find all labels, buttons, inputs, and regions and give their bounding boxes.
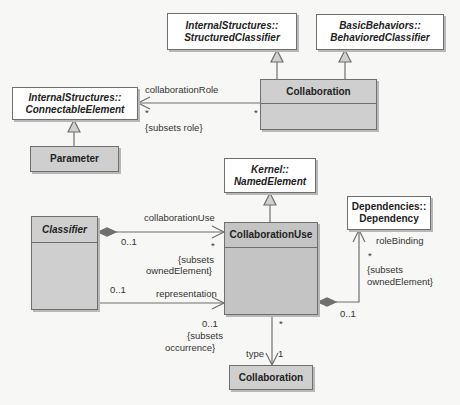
compartment-divider bbox=[32, 242, 97, 243]
class-name: ConnectableElement bbox=[26, 104, 125, 116]
class-package: InternalStructures:: bbox=[186, 20, 279, 32]
class-collaboration-bottom: Collaboration bbox=[229, 365, 313, 390]
mult-collaboration-role-source: * bbox=[254, 107, 258, 118]
compartment-divider bbox=[225, 247, 317, 248]
constraint-role-binding-2: ownedElement} bbox=[367, 276, 433, 287]
class-connectable-element: InternalStructures:: ConnectableElement bbox=[12, 87, 138, 120]
class-collaboration-top: Collaboration bbox=[260, 79, 377, 130]
mult-type-target: 1 bbox=[278, 348, 283, 359]
constraint-representation-2: occurrence} bbox=[165, 342, 215, 353]
mult-role-binding-target: * bbox=[368, 250, 372, 261]
class-package: InternalStructures:: bbox=[29, 92, 122, 104]
class-classifier: Classifier bbox=[31, 216, 98, 310]
class-name: CollaborationUse bbox=[230, 229, 313, 241]
role-representation: representation bbox=[156, 288, 217, 299]
class-structured-classifier: InternalStructures:: StructuredClassifie… bbox=[167, 13, 297, 50]
class-named-element: Kernel:: NamedElement bbox=[224, 158, 316, 193]
constraint-collaboration-use-1: {subsets bbox=[178, 254, 214, 265]
mult-collaboration-use-source: 0..1 bbox=[121, 236, 137, 247]
class-collaboration-use: CollaborationUse bbox=[224, 222, 318, 315]
class-name: StructuredClassifier bbox=[184, 32, 280, 44]
role-role-binding: roleBinding bbox=[376, 235, 424, 246]
mult-collaboration-use-target: * bbox=[211, 240, 215, 251]
class-name: Dependency bbox=[359, 213, 418, 225]
mult-role-binding-source: 0..1 bbox=[340, 308, 356, 319]
mult-representation-target: 0..1 bbox=[202, 318, 218, 329]
class-name: Collaboration bbox=[286, 86, 350, 98]
mult-type-source: * bbox=[279, 318, 283, 329]
class-behaviored-classifier: BasicBehaviors:: BehavioredClassifier bbox=[316, 14, 444, 50]
class-name: BehavioredClassifier bbox=[330, 32, 430, 44]
role-type: type bbox=[246, 348, 264, 359]
class-dependency: Dependencies:: Dependency bbox=[347, 196, 431, 230]
class-name: Collaboration bbox=[239, 372, 303, 384]
compartment-divider bbox=[261, 103, 376, 104]
role-collaboration-role: collaborationRole bbox=[145, 84, 218, 95]
class-parameter: Parameter bbox=[30, 146, 119, 172]
class-package: Dependencies:: bbox=[352, 201, 426, 213]
class-package: BasicBehaviors:: bbox=[339, 20, 421, 32]
class-name: Parameter bbox=[50, 153, 99, 165]
mult-collaboration-role-target: * bbox=[145, 107, 149, 118]
constraint-role-binding-1: {subsets bbox=[367, 264, 403, 275]
constraint-collaboration-use-2: ownedElement} bbox=[146, 265, 212, 276]
class-package: Kernel:: bbox=[251, 164, 289, 176]
class-name: Classifier bbox=[42, 224, 87, 236]
constraint-subsets-role: {subsets role} bbox=[145, 122, 203, 133]
mult-representation-source: 0..1 bbox=[110, 284, 126, 295]
role-collaboration-use: collaborationUse bbox=[144, 212, 215, 223]
class-name: NamedElement bbox=[234, 176, 306, 188]
constraint-representation-1: {subsets bbox=[187, 330, 223, 341]
